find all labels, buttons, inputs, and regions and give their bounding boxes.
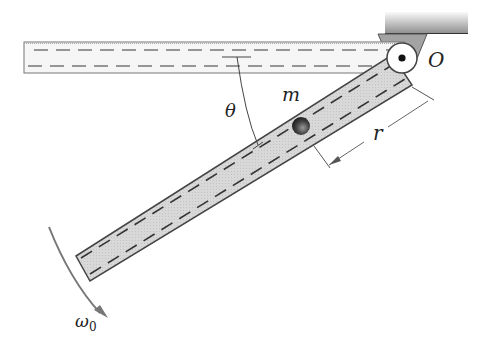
mass-ball (292, 117, 310, 135)
radius-label: r (373, 121, 384, 145)
omega-subscript: 0 (89, 320, 97, 334)
angular-velocity-label: ω0 (75, 311, 97, 334)
horizontal-tube (24, 42, 404, 73)
pivot (387, 43, 417, 73)
tilted-tube (76, 55, 412, 281)
omega-symbol: ω (75, 311, 89, 331)
mass-label: m (282, 83, 300, 105)
pivot-label: O (428, 48, 444, 72)
angle-label: θ (225, 100, 236, 121)
rotating-tube-diagram: O m θ r ω0 (0, 0, 491, 358)
